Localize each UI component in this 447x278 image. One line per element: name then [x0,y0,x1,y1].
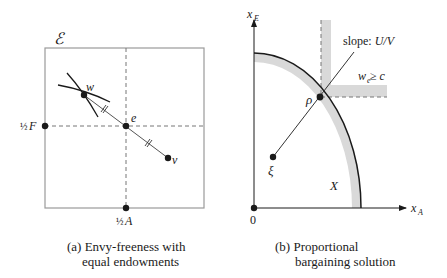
label-v: v [172,153,178,167]
constraint-label-rest: ≥ c [370,69,386,83]
label-rho: ρ [305,92,312,107]
y-axis-subscript: E [253,14,259,23]
panel-b-bargaining: x E x A 0 slope: U/V w e ≥ c ρ ξ X [246,7,423,227]
slope-label: slope: U/V [343,34,396,48]
caption-a-line2: equal endowments [67,254,185,269]
label-half-A: A [124,214,133,228]
x-axis-subscript: A [417,208,423,217]
caption-b-line1: (b) Proportional [275,239,396,254]
constraint-label-w: w [358,69,366,83]
caption-a: (a) Envy-freeness with equal endowments [67,239,185,269]
point-origin [251,205,257,211]
point-v [165,155,171,161]
point-half-F [42,123,48,129]
point-half-A [123,205,129,211]
figure-canvas: ℰ w e v ½ F ½ A x E x A 0 slope: U/V w [0,0,447,278]
label-half-A-fraction: ½ [116,216,124,227]
label-xi: ξ [268,163,274,178]
panel-a-edgeworth-box: ℰ w e v ½ F ½ A [20,30,204,228]
point-e [123,123,129,129]
constraint-band-horizontal [321,85,387,97]
label-half-F-fraction: ½ [20,121,28,132]
origin-label: 0 [250,213,256,227]
label-half-F: F [28,119,37,133]
endowment-set-label: ℰ [54,30,66,47]
frontier-band [254,53,361,208]
label-set-X: X [329,178,339,193]
point-xi [270,154,276,160]
caption-a-line1: (a) Envy-freeness with [67,239,185,254]
x-axis-label: x [410,201,417,215]
caption-b: (b) Proportional bargaining solution [275,239,396,269]
point-rho [317,94,324,101]
caption-b-line2: bargaining solution [275,254,396,269]
y-axis-label: x [246,7,253,21]
label-e: e [131,111,137,125]
label-w: w [86,80,94,94]
